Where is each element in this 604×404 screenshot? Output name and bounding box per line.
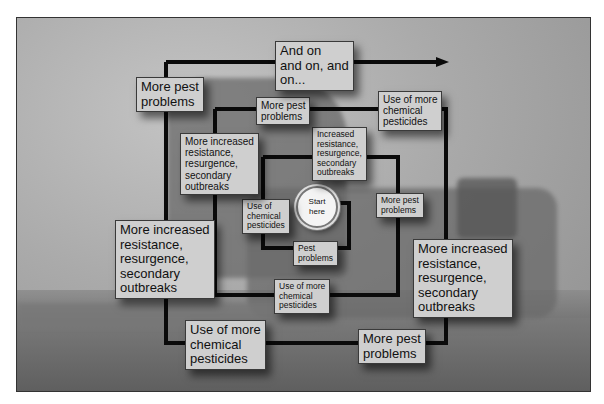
label-more-pest-problems-1: More pest problems xyxy=(376,193,424,218)
label-more-pest-problems-4: More pest problems xyxy=(136,77,204,112)
label-use-more-chemical-2: Use of more chemical pesticides xyxy=(378,91,442,131)
label-more-pest-problems-3: More pest problems xyxy=(358,329,426,364)
label-more-increased-resistance-3: More increased resistance, resurgence, s… xyxy=(115,220,215,299)
label-more-increased-resistance-2: More increased resistance, resurgence, s… xyxy=(413,239,513,318)
arrowhead-icon xyxy=(436,57,449,67)
label-more-pest-problems-2: More pest problems xyxy=(256,97,310,125)
label-use-chemical-pesticides: Use of chemical pesticides xyxy=(242,199,290,234)
start-here-circle: Start here xyxy=(296,186,338,228)
label-and-on: And on and on, and on... xyxy=(275,41,354,91)
label-use-more-chemical-3: Use of more chemical pesticides xyxy=(185,320,266,370)
label-pest-problems: Pest problems xyxy=(293,241,338,266)
label-increased-resistance: Increased resistance, resurgence, second… xyxy=(312,127,367,181)
label-use-more-chemical-1: Use of more chemical pesticides xyxy=(274,279,330,314)
label-more-increased-resistance-1: More increased resistance, resurgence, s… xyxy=(180,133,259,195)
